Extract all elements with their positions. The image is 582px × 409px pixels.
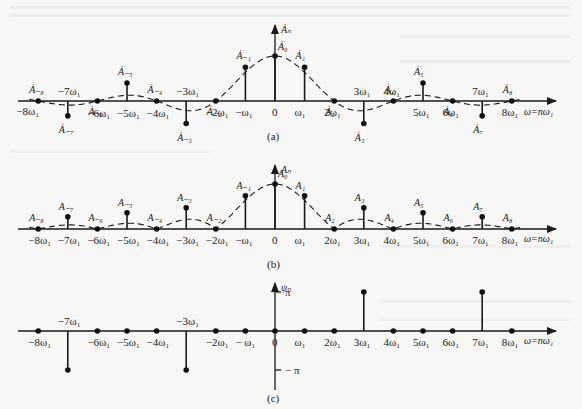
tick-label: ω₁ <box>295 336 306 348</box>
tick-label: −3ω₁ <box>176 85 199 97</box>
tick-label: 8ω₁ <box>502 234 519 246</box>
tick-label: 3ω₁ <box>354 336 371 348</box>
spectral-point-4 <box>391 328 397 334</box>
tick-label: 6ω₁ <box>443 106 460 118</box>
amplitude-label: Ȧ₅ <box>413 66 424 77</box>
spectral-point--8 <box>35 328 41 334</box>
tick-label: −2ω₁ <box>206 336 229 348</box>
tick-label: 5ω₁ <box>413 336 430 348</box>
amplitude-label: A₋₁ <box>235 180 251 191</box>
tick-label: −3ω₁ <box>176 234 199 246</box>
amplitude-label: A₋₇ <box>58 201 74 212</box>
tick-label: 4ω₁ <box>383 234 400 246</box>
spectral-point--6 <box>95 226 101 232</box>
spectral-point-0 <box>272 53 278 59</box>
tick-label: 2ω₁ <box>324 336 341 348</box>
amplitude-label: Ȧ₋₄ <box>147 84 163 95</box>
amplitude-label: A₋₃ <box>176 192 192 203</box>
tick-label: 2ω₁ <box>324 106 341 118</box>
tick-label: −7ω₁ <box>58 85 81 97</box>
amplitude-label: Ȧ₈ <box>502 84 513 95</box>
tick-label: ω₁ <box>295 234 306 246</box>
spectral-point--8 <box>35 98 41 104</box>
tick-label: 0 <box>272 106 278 118</box>
spectral-point-2 <box>331 328 337 334</box>
spectral-point--7 <box>65 367 71 373</box>
spectral-point-2 <box>331 226 337 232</box>
spectral-point--3 <box>183 121 189 127</box>
spectral-point--2 <box>213 98 219 104</box>
tick-label: −6ω₁ <box>87 107 110 119</box>
spectral-point-1 <box>302 193 308 199</box>
spectral-point--1 <box>243 64 249 70</box>
spectral-point--4 <box>154 328 160 334</box>
spectral-point--4 <box>154 226 160 232</box>
amplitude-label: A₂ <box>324 212 335 223</box>
amplitude-label: A₅ <box>413 197 424 208</box>
spectral-point-3 <box>361 121 367 127</box>
tick-label: 7ω₁ <box>472 336 489 348</box>
spectral-point-6 <box>450 328 456 334</box>
tick-label: 0 <box>272 336 278 348</box>
tick-label: −5ω₁ <box>117 107 140 119</box>
spectral-point-5 <box>420 80 426 86</box>
x-axis-label: ω=nω₁ <box>524 335 553 346</box>
spectral-point--2 <box>213 226 219 232</box>
tick-label: −2ω₁ <box>206 234 229 246</box>
tick-label: − ω₁ <box>235 336 255 348</box>
spectral-point-5 <box>420 328 426 334</box>
tick-label: −6ω₁ <box>87 336 110 348</box>
amplitude-label: Ȧ₇ <box>472 124 483 135</box>
pi-tick-label: π <box>285 286 291 298</box>
amplitude-label: A₁ <box>295 180 306 191</box>
spectrum-figure: Ȧₙω=nω₁(a)Ȧ₋₈−8ω₁Ȧ₋₇−7ω₁Ȧ₋₆−6ω₁Ȧ₋₅−5ω₁Ȧ₋… <box>0 0 582 409</box>
spectral-point-4 <box>391 98 397 104</box>
amplitude-label: Ȧ₃ <box>354 132 365 143</box>
spectral-point-8 <box>509 226 515 232</box>
tick-label: 8ω₁ <box>502 106 519 118</box>
spectral-point-5 <box>420 210 426 216</box>
tick-label: 4ω₁ <box>383 85 400 97</box>
tick-label: −5ω₁ <box>117 234 140 246</box>
spectral-point--8 <box>35 226 41 232</box>
amplitude-label: Ȧ₋₈ <box>28 84 44 95</box>
amplitude-label: Ȧ₋₁ <box>235 50 251 61</box>
amplitude-label: A₃ <box>354 192 365 203</box>
amplitude-label: A₋₄ <box>147 212 163 223</box>
spectral-point-8 <box>509 328 515 334</box>
spectral-point-7 <box>479 214 485 220</box>
amplitude-label: A₋₈ <box>28 212 44 223</box>
spectral-point--6 <box>95 98 101 104</box>
spectral-point--1 <box>243 193 249 199</box>
tick-label: 6ω₁ <box>443 336 460 348</box>
amplitude-label: A₄ <box>383 212 394 223</box>
tick-label: 5ω₁ <box>413 106 430 118</box>
spectral-point-4 <box>391 226 397 232</box>
x-axis-label: ω=nω₁ <box>524 233 553 244</box>
tick-label: −4ω₁ <box>147 107 170 119</box>
amplitude-label: A₋₅ <box>117 197 133 208</box>
tick-label: 3ω₁ <box>354 234 371 246</box>
amplitude-label: Ȧ₋₅ <box>117 66 133 77</box>
spectral-point--1 <box>243 328 249 334</box>
tick-label: −2ω₁ <box>206 106 229 118</box>
spectral-point-7 <box>479 113 485 119</box>
tick-label: ω₁ <box>295 106 306 118</box>
panel-caption: (c) <box>267 392 280 405</box>
amplitude-label: Ȧ₋₇ <box>58 124 74 135</box>
tick-label: −ω₁ <box>235 106 252 118</box>
tick-label: 0 <box>272 234 278 246</box>
spectral-point-3 <box>361 205 367 211</box>
tick-label: 5ω₁ <box>413 234 430 246</box>
amplitude-label: A₆ <box>443 212 454 223</box>
spectral-point-8 <box>509 98 515 104</box>
spectral-point-0 <box>272 181 278 187</box>
spectral-point-6 <box>450 98 456 104</box>
tick-label: 3ω₁ <box>354 85 371 97</box>
spectral-point--7 <box>65 214 71 220</box>
spectral-point--2 <box>213 328 219 334</box>
spectral-point-3 <box>361 289 367 295</box>
amplitude-label: A₋₆ <box>87 212 103 223</box>
spectral-point-0 <box>272 328 278 334</box>
tick-label: −4ω₁ <box>147 234 170 246</box>
